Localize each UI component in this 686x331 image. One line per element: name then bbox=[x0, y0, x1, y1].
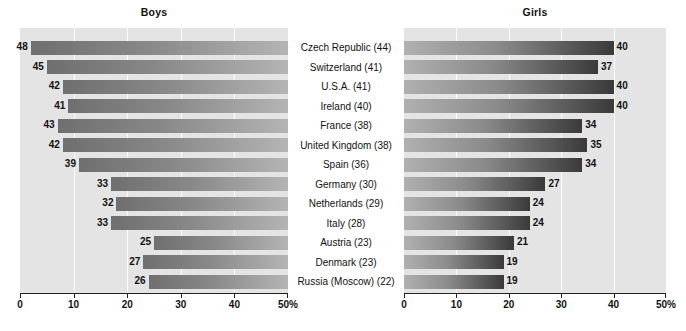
bar bbox=[404, 138, 587, 152]
bar-row: 42 bbox=[20, 77, 288, 97]
bar-row: 40 bbox=[404, 97, 666, 117]
bar bbox=[63, 138, 288, 152]
axis-tick-label: 0 bbox=[17, 299, 23, 310]
category-label: Netherlands (29) bbox=[290, 194, 402, 214]
bar-row: 19 bbox=[404, 253, 666, 273]
axis-tick-label: 40 bbox=[229, 299, 240, 310]
bar-value-label: 33 bbox=[97, 176, 108, 191]
bar-row: 37 bbox=[404, 58, 666, 78]
bar-value-label: 27 bbox=[129, 254, 140, 269]
bar bbox=[58, 119, 288, 133]
bar bbox=[404, 60, 598, 74]
bar bbox=[154, 236, 288, 250]
bar-row: 45 bbox=[20, 58, 288, 78]
bar bbox=[404, 158, 582, 172]
bar-row: 39 bbox=[20, 155, 288, 175]
category-label: Austria (23) bbox=[290, 233, 402, 253]
bar bbox=[116, 197, 288, 211]
bar bbox=[404, 275, 504, 289]
axis-tick-label: 10 bbox=[68, 299, 79, 310]
bar-value-label: 41 bbox=[54, 98, 65, 113]
bar-row: 40 bbox=[404, 38, 666, 58]
bar-row: 34 bbox=[404, 155, 666, 175]
category-label: Spain (36) bbox=[290, 155, 402, 175]
axis-tick-label: 10 bbox=[451, 299, 462, 310]
bar-value-label: 25 bbox=[140, 234, 151, 249]
axis-tick-label: 50% bbox=[278, 299, 298, 310]
bar-row: 48 bbox=[20, 38, 288, 58]
bar-row: 42 bbox=[20, 136, 288, 156]
category-label: Germany (30) bbox=[290, 175, 402, 195]
bar-value-label: 21 bbox=[517, 234, 528, 249]
bar-value-label: 35 bbox=[590, 137, 601, 152]
category-label: United Kingdom (38) bbox=[290, 136, 402, 156]
bar-value-label: 42 bbox=[49, 137, 60, 152]
category-label: Denmark (23) bbox=[290, 253, 402, 273]
axis-tick-label: 30 bbox=[175, 299, 186, 310]
bar-value-label: 37 bbox=[601, 59, 612, 74]
bar-row: 27 bbox=[20, 253, 288, 273]
axis-tick bbox=[665, 293, 666, 298]
bar bbox=[404, 119, 582, 133]
bar bbox=[404, 41, 614, 55]
bar-row: 32 bbox=[20, 194, 288, 214]
bar bbox=[79, 158, 288, 172]
bar-value-label: 19 bbox=[507, 273, 518, 288]
bar bbox=[63, 80, 288, 94]
axis-tick bbox=[456, 293, 457, 298]
bar bbox=[111, 216, 288, 230]
bar-row: 21 bbox=[404, 233, 666, 253]
bar-value-label: 42 bbox=[49, 78, 60, 93]
bar bbox=[404, 80, 614, 94]
category-label: Ireland (40) bbox=[290, 97, 402, 117]
axis-tick bbox=[287, 293, 288, 298]
bar-row: 33 bbox=[20, 214, 288, 234]
bar-row: 35 bbox=[404, 136, 666, 156]
bar-value-label: 32 bbox=[102, 195, 113, 210]
bar bbox=[68, 99, 288, 113]
bar bbox=[404, 216, 530, 230]
category-label: U.S.A. (41) bbox=[290, 77, 402, 97]
bar-row: 24 bbox=[404, 214, 666, 234]
axis-tick bbox=[127, 293, 128, 298]
axis-line-boys bbox=[20, 293, 288, 294]
bar bbox=[111, 177, 288, 191]
bar-value-label: 45 bbox=[33, 59, 44, 74]
category-label: France (38) bbox=[290, 116, 402, 136]
category-label: Switzerland (41) bbox=[290, 58, 402, 78]
diverging-bar-chart: Boys Girls 48454241434239333233252726 Cz… bbox=[0, 0, 686, 331]
axis-line-girls bbox=[404, 293, 666, 294]
category-label: Czech Republic (44) bbox=[290, 38, 402, 58]
bar-value-label: 24 bbox=[533, 195, 544, 210]
bar bbox=[143, 255, 288, 269]
bar-value-label: 40 bbox=[617, 98, 628, 113]
x-axis-girls: 01020304050% bbox=[404, 293, 666, 323]
axis-tick bbox=[509, 293, 510, 298]
category-label: Russia (Moscow) (22) bbox=[290, 272, 402, 292]
axis-tick bbox=[234, 293, 235, 298]
bar bbox=[404, 255, 504, 269]
bar bbox=[31, 41, 288, 55]
axis-tick bbox=[404, 293, 405, 298]
bar-value-label: 24 bbox=[533, 215, 544, 230]
axis-tick bbox=[181, 293, 182, 298]
bar bbox=[404, 177, 545, 191]
bar-row: 26 bbox=[20, 272, 288, 292]
bar-value-label: 34 bbox=[585, 117, 596, 132]
bar-row: 40 bbox=[404, 77, 666, 97]
bar-value-label: 26 bbox=[135, 273, 146, 288]
bar-rows-boys: 48454241434239333233252726 bbox=[20, 28, 288, 293]
bar bbox=[47, 60, 288, 74]
panel-title-boys: Boys bbox=[20, 6, 288, 18]
axis-tick-label: 30 bbox=[556, 299, 567, 310]
axis-tick bbox=[614, 293, 615, 298]
plot-area-boys: 48454241434239333233252726 bbox=[20, 28, 288, 293]
bar-rows-girls: 40374040343534272424211919 bbox=[404, 28, 666, 293]
bar-value-label: 43 bbox=[43, 117, 54, 132]
axis-tick bbox=[20, 293, 21, 298]
bar-value-label: 33 bbox=[97, 215, 108, 230]
bar-value-label: 48 bbox=[17, 39, 28, 54]
axis-tick-label: 20 bbox=[122, 299, 133, 310]
bar-value-label: 39 bbox=[65, 156, 76, 171]
axis-tick-label: 50% bbox=[656, 299, 676, 310]
